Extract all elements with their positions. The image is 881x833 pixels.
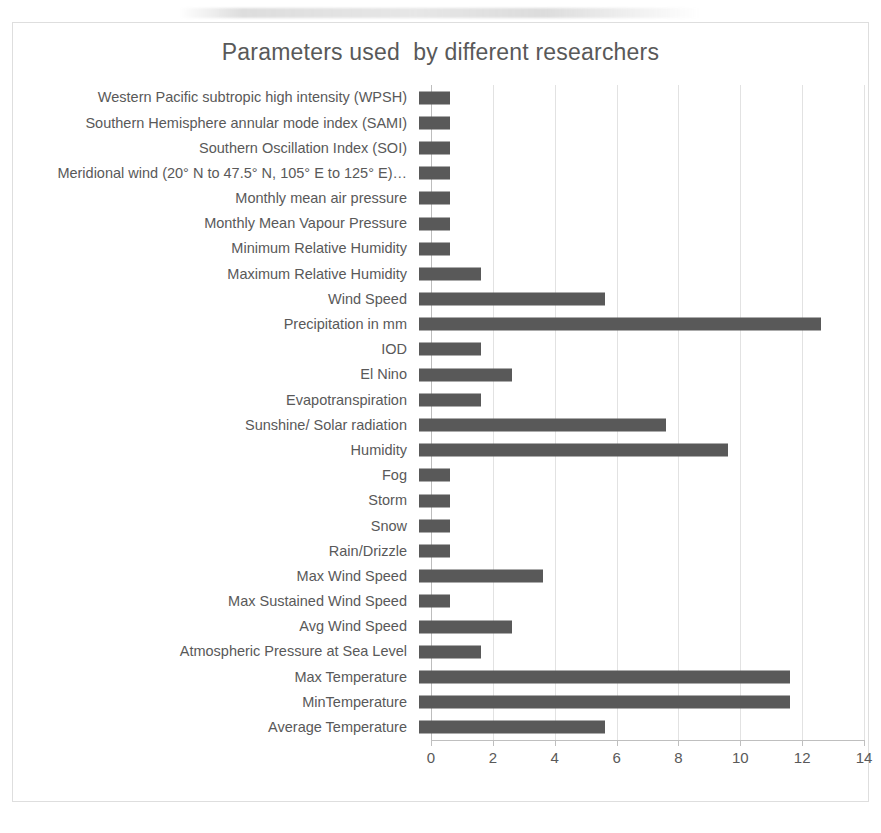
bar[interactable] (419, 570, 543, 583)
bar[interactable] (419, 519, 450, 532)
x-tick-4 (555, 740, 556, 746)
bar-cell (419, 136, 868, 160)
bar-cell (419, 186, 868, 210)
bar[interactable] (419, 167, 450, 180)
bar-row: Wind Speed (13, 287, 868, 311)
category-label: Atmospheric Pressure at Sea Level (13, 644, 419, 659)
bar-row: IOD (13, 337, 868, 361)
x-axis-ticks (431, 740, 864, 747)
bar[interactable] (419, 645, 481, 658)
x-tick-0 (431, 740, 432, 746)
bar-row: El Nino (13, 363, 868, 387)
bar[interactable] (419, 116, 450, 129)
bar-row: Minimum Relative Humidity (13, 237, 868, 261)
bar[interactable] (419, 343, 481, 356)
category-label: Average Temperature (13, 720, 419, 735)
bar-row: Monthly Mean Vapour Pressure (13, 212, 868, 236)
x-tick-6 (617, 740, 618, 746)
bar[interactable] (419, 141, 450, 154)
category-label: Minimum Relative Humidity (13, 241, 419, 256)
category-label: Snow (13, 519, 419, 534)
x-tick-label-10: 10 (732, 749, 749, 766)
category-label: Humidity (13, 443, 419, 458)
bar-cell (419, 212, 868, 236)
bar-cell (419, 287, 868, 311)
bar-row: Monthly mean air pressure (13, 186, 868, 210)
bar-cell (419, 539, 868, 563)
category-label: Evapotranspiration (13, 393, 419, 408)
category-label: Southern Hemisphere annular mode index (… (13, 116, 419, 131)
chart-title: Parameters used by different researchers (13, 39, 868, 66)
category-label: Wind Speed (13, 292, 419, 307)
x-tick-label-0: 0 (427, 749, 435, 766)
bar-row: Snow (13, 514, 868, 538)
bar-row: Western Pacific subtropic high intensity… (13, 86, 868, 110)
bar-row: Atmospheric Pressure at Sea Level (13, 640, 868, 664)
category-label: Max Sustained Wind Speed (13, 594, 419, 609)
bar[interactable] (419, 318, 821, 331)
x-tick-14 (864, 740, 865, 746)
bar[interactable] (419, 368, 512, 381)
x-tick-label-14: 14 (856, 749, 873, 766)
bar-cell (419, 564, 868, 588)
x-axis-tick-labels: 02468101214 (431, 749, 864, 771)
x-tick-2 (493, 740, 494, 746)
bar-row: Rain/Drizzle (13, 539, 868, 563)
bar[interactable] (419, 620, 512, 633)
bar-row: MinTemperature (13, 690, 868, 714)
bar-row: Average Temperature (13, 715, 868, 739)
x-tick-12 (802, 740, 803, 746)
bar[interactable] (419, 696, 790, 709)
bar-row: Precipitation in mm (13, 312, 868, 336)
bar[interactable] (419, 91, 450, 104)
bar-cell (419, 615, 868, 639)
bar[interactable] (419, 293, 605, 306)
bar-cell (419, 161, 868, 185)
bar-cell (419, 388, 868, 412)
bar-row: Maximum Relative Humidity (13, 262, 868, 286)
category-label: Monthly mean air pressure (13, 191, 419, 206)
x-tick-10 (740, 740, 741, 746)
category-label: MinTemperature (13, 695, 419, 710)
bar-cell (419, 262, 868, 286)
plot-area: Western Pacific subtropic high intensity… (13, 85, 868, 775)
bar-row: Sunshine/ Solar radiation (13, 413, 868, 437)
category-label: Sunshine/ Solar radiation (13, 418, 419, 433)
category-label: Monthly Mean Vapour Pressure (13, 216, 419, 231)
bar[interactable] (419, 721, 605, 734)
bar-cell (419, 438, 868, 462)
x-tick-label-4: 4 (551, 749, 559, 766)
bar[interactable] (419, 393, 481, 406)
bar[interactable] (419, 670, 790, 683)
x-tick-label-8: 8 (674, 749, 682, 766)
bar-row: Fog (13, 463, 868, 487)
bar-row: Max Temperature (13, 665, 868, 689)
bar-row: Max Sustained Wind Speed (13, 589, 868, 613)
bar-row: Avg Wind Speed (13, 615, 868, 639)
bar[interactable] (419, 192, 450, 205)
bar-row: Evapotranspiration (13, 388, 868, 412)
bar-cell (419, 337, 868, 361)
bar[interactable] (419, 595, 450, 608)
category-label: Western Pacific subtropic high intensity… (13, 90, 419, 105)
bar[interactable] (419, 544, 450, 557)
bar[interactable] (419, 267, 481, 280)
bar-cell (419, 489, 868, 513)
x-tick-label-2: 2 (489, 749, 497, 766)
bar-cell (419, 715, 868, 739)
bar-cell (419, 86, 868, 110)
bar[interactable] (419, 419, 666, 432)
bar-cell (419, 463, 868, 487)
bar[interactable] (419, 242, 450, 255)
bar[interactable] (419, 469, 450, 482)
bar-rows: Western Pacific subtropic high intensity… (13, 85, 868, 740)
bar[interactable] (419, 217, 450, 230)
category-label: Max Temperature (13, 670, 419, 685)
scan-artifact-top (180, 8, 700, 18)
category-label: Storm (13, 493, 419, 508)
category-label: Maximum Relative Humidity (13, 267, 419, 282)
bar[interactable] (419, 494, 450, 507)
bar[interactable] (419, 444, 728, 457)
bar-cell (419, 363, 868, 387)
x-tick-label-12: 12 (794, 749, 811, 766)
